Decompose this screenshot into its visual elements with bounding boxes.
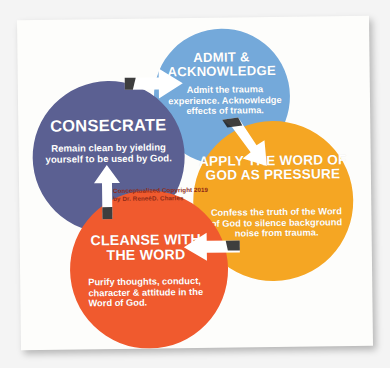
diagram-canvas: ADMIT & ACKNOWLEDGE Admit the trauma exp…: [17, 16, 373, 350]
diagram-circle-cleanse[interactable]: CLEANSE WITH THE WORD Purify thoughts, c…: [69, 190, 229, 350]
circle-body-cleanse: Purify thoughts, conduct, character & at…: [88, 276, 218, 309]
screenshot-canvas: ADMIT & ACKNOWLEDGE Admit the trauma exp…: [0, 0, 390, 368]
circle-body-admit: Admit the trauma experience. Acknowledge…: [164, 84, 286, 117]
circle-body-apply: Confess the truth of the Word of God to …: [205, 206, 347, 240]
copyright-credit-line2: by Dr. ReneéD. Charles: [113, 194, 233, 204]
circle-body-consecrate: Remain clean by yielding yourself to be …: [39, 142, 179, 166]
circle-title-cleanse: CLEANSE WITH THE WORD: [78, 232, 214, 263]
copyright-credit: Conceptualized Copyright 2019 by Dr. Ren…: [113, 186, 233, 204]
circle-title-apply: APPLY THE WORD OF GOD AS PRESSURE: [199, 153, 347, 183]
circle-title-consecrate: CONSECRATE: [32, 116, 184, 135]
circle-title-admit: ADMIT & ACKNOWLEDGE: [157, 50, 285, 79]
photographed-paper-sheet: ADMIT & ACKNOWLEDGE Admit the trauma exp…: [17, 16, 373, 350]
